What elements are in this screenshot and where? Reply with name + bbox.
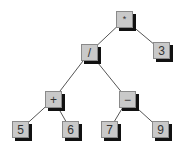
node-label: *	[116, 11, 133, 28]
expression-tree-diagram: * 3 / + − 5 6 7 9	[0, 0, 182, 156]
node-label: 5	[12, 121, 29, 138]
node-label: /	[81, 44, 98, 61]
node-operand-5: 5	[12, 121, 29, 138]
node-operand-7: 7	[101, 121, 118, 138]
node-operand-3: 3	[153, 42, 170, 59]
node-operand-9: 9	[152, 121, 169, 138]
node-label: 3	[153, 42, 170, 59]
node-label: −	[119, 91, 136, 108]
node-operand-6: 6	[62, 121, 79, 138]
node-multiply: *	[116, 11, 133, 28]
node-label: 7	[101, 121, 118, 138]
node-label: 6	[62, 121, 79, 138]
node-label: 9	[152, 121, 169, 138]
node-divide: /	[81, 44, 98, 61]
node-plus: +	[45, 91, 62, 108]
node-minus: −	[119, 91, 136, 108]
node-label: +	[45, 91, 62, 108]
